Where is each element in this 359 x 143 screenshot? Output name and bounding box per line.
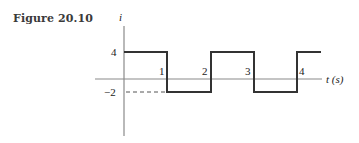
x-tick-2: 2 [202,65,208,77]
x-tick-4: 4 [299,65,305,77]
x-tick-3: 3 [245,65,251,77]
y-tick-neg2: −2 [104,86,116,98]
square-wave-plot: i 4 −2 1 2 3 4 t (s) [0,0,359,143]
x-tick-1: 1 [159,65,165,77]
y-tick-4: 4 [111,46,117,58]
y-axis-label: i [119,11,122,23]
x-axis-label: t (s) [326,73,344,86]
waveform [124,52,321,92]
